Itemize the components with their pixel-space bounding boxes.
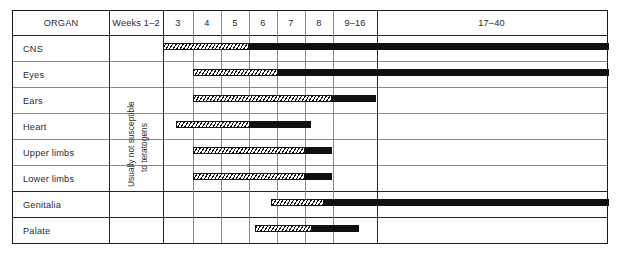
vertical-note-line-1: Usually not susceptible [126,101,137,187]
row-label-genitalia: Genitalia [23,200,61,210]
bar-cns-sensitive [163,43,249,50]
bar-lower-limbs-less-sensitive [305,173,332,180]
gridline-row-7 [13,217,607,218]
column-header-week-3: 3 [163,18,193,28]
bar-ears-sensitive [193,95,332,102]
bar-upper-limbs-sensitive [193,147,305,154]
bar-palate-less-sensitive [312,225,359,232]
column-header-week-5: 5 [221,18,249,28]
bar-heart-less-sensitive [250,121,311,128]
row-label-ears: Ears [23,96,43,106]
column-header-week-6: 6 [249,18,277,28]
bar-cns-less-sensitive [249,43,609,50]
critical-periods-chart: ORGAN Weeks 1–2 3 4 5 6 7 8 9–16 17–40 C… [0,0,620,255]
bar-eyes-less-sensitive [278,69,609,76]
gridline-row-4 [13,139,607,140]
column-header-weeks-17-40: 17–40 [377,18,606,28]
gridline-row-1 [13,61,607,62]
gridline-header-bottom [13,35,607,36]
bar-genitalia-sensitive [271,199,324,206]
row-label-eyes: Eyes [23,70,44,80]
gridline-col-organ [109,11,110,243]
chart-table-frame: ORGAN Weeks 1–2 3 4 5 6 7 8 9–16 17–40 C… [12,10,608,244]
row-label-cns: CNS [23,44,43,54]
column-header-week-8: 8 [305,18,333,28]
bar-lower-limbs-sensitive [193,173,305,180]
bar-ears-less-sensitive [332,95,376,102]
row-label-palate: Palate [23,226,50,236]
column-header-organ: ORGAN [13,18,109,28]
bar-heart-sensitive [176,121,250,128]
row-label-lower-limbs: Lower limbs [23,174,74,184]
column-header-weeks-1-2: Weeks 1–2 [109,18,163,28]
column-header-week-4: 4 [193,18,221,28]
row-label-upper-limbs: Upper limbs [23,148,74,158]
gridline-row-6 [13,191,607,192]
row-label-heart: Heart [23,122,46,132]
column-header-weeks-9-16: 9–16 [333,18,377,28]
bar-eyes-sensitive [193,69,278,76]
bar-upper-limbs-less-sensitive [305,147,332,154]
gridline-row-3 [13,113,607,114]
bar-genitalia-less-sensitive [324,199,609,206]
gridline-row-5 [13,165,607,166]
gridline-row-2 [13,87,607,88]
column-header-week-7: 7 [277,18,305,28]
bar-palate-sensitive [255,225,312,232]
